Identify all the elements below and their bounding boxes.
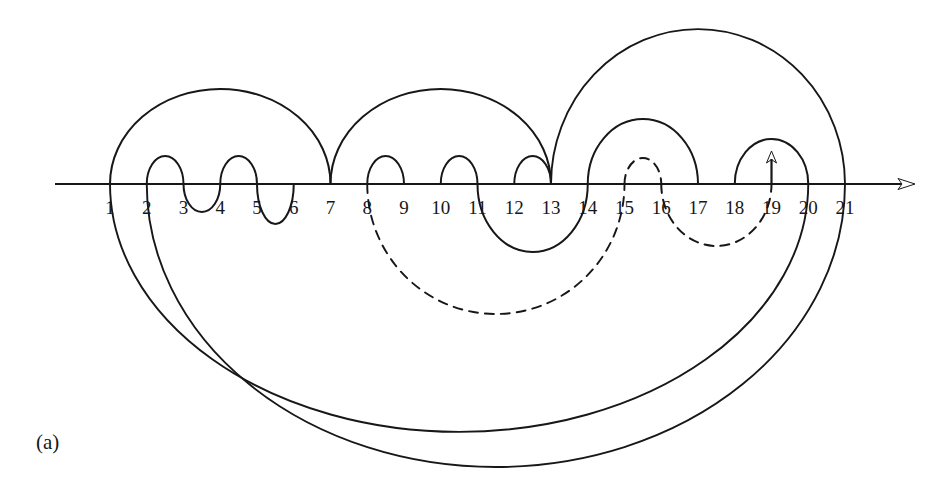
figure-root: 123456789101112131415161718192021 (a) [0,0,948,498]
tick-label-4: 4 [216,198,226,217]
arc-u-2-3 [147,156,184,184]
tick-label-15: 15 [615,198,634,217]
tick-label-18: 18 [725,198,744,217]
tick-label-9: 9 [399,198,409,217]
arc-l-16-19 [661,184,771,246]
arc-u-7-13 [331,89,552,184]
tick-label-12: 12 [505,198,524,217]
tick-label-1: 1 [105,198,115,217]
tick-label-16: 16 [652,198,671,217]
arc-l-11-14 [478,184,588,252]
arc-u-1-7 [110,89,331,184]
arc-u-15-16 [625,158,662,184]
arc-u-13-21 [551,29,845,184]
arc-u-10-11 [441,156,478,184]
arc-l-2-21 [147,184,845,467]
marker-layer [767,151,777,184]
tick-label-5: 5 [252,198,262,217]
tick-label-10: 10 [431,198,450,217]
tick-label-20: 20 [799,198,818,217]
chord-diagram-canvas [0,0,948,498]
tick-label-2: 2 [142,198,152,217]
tick-label-8: 8 [363,198,373,217]
tick-label-14: 14 [578,198,597,217]
arcs-layer [110,29,845,467]
tick-label-7: 7 [326,198,336,217]
tick-label-3: 3 [179,198,189,217]
tick-label-13: 13 [542,198,561,217]
arc-u-14-17 [588,119,698,184]
tick-label-19: 19 [762,198,781,217]
arc-u-8-9 [367,156,404,184]
arc-u-12-13 [514,156,551,184]
arc-u-4-5 [220,156,257,184]
tick-label-6: 6 [289,198,299,217]
tick-label-21: 21 [836,198,855,217]
tick-label-17: 17 [689,198,708,217]
tick-label-11: 11 [468,198,486,217]
panel-caption: (a) [36,432,59,453]
